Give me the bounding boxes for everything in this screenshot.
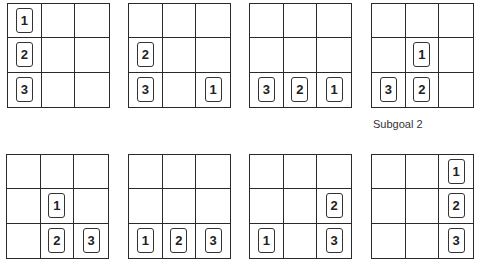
board-3: 321 bbox=[249, 3, 352, 108]
grid-cell bbox=[196, 4, 230, 38]
grid-cell bbox=[41, 155, 75, 189]
grid-cell bbox=[317, 4, 351, 38]
grid-cell bbox=[406, 155, 440, 189]
tile-1: 1 bbox=[413, 42, 430, 67]
grid-cell bbox=[372, 224, 406, 258]
board-6: 123 bbox=[128, 154, 231, 259]
grid-cell: 3 bbox=[317, 224, 351, 258]
grid-cell bbox=[284, 155, 318, 189]
grid-cell: 1 bbox=[317, 73, 351, 107]
grid-cell bbox=[439, 4, 473, 38]
tile-1: 1 bbox=[16, 8, 33, 33]
grid-cell bbox=[284, 38, 318, 72]
tile-2: 2 bbox=[291, 77, 308, 102]
grid-cell: 3 bbox=[196, 224, 230, 258]
grid-cell: 2 bbox=[41, 224, 75, 258]
grid-cell bbox=[439, 73, 473, 107]
grid-cell: 1 bbox=[439, 155, 473, 189]
board-5: 123 bbox=[6, 154, 109, 259]
grid-cell bbox=[317, 38, 351, 72]
tile-1: 1 bbox=[205, 77, 222, 102]
grid-cell bbox=[372, 189, 406, 223]
tile-2: 2 bbox=[448, 193, 465, 218]
grid-cell bbox=[7, 155, 41, 189]
grid-cell bbox=[250, 189, 284, 223]
tile-2: 2 bbox=[16, 42, 33, 67]
grid-cell bbox=[372, 4, 406, 38]
grid-cell bbox=[250, 4, 284, 38]
tile-2: 2 bbox=[326, 193, 343, 218]
grid-cell: 3 bbox=[372, 73, 406, 107]
grid-cell bbox=[317, 155, 351, 189]
grid-cell bbox=[163, 189, 197, 223]
tile-2: 2 bbox=[413, 77, 430, 102]
grid-cell: 2 bbox=[284, 73, 318, 107]
grid-cell bbox=[250, 155, 284, 189]
grid-cell: 2 bbox=[163, 224, 197, 258]
tile-3: 3 bbox=[448, 228, 465, 253]
grid-cell bbox=[129, 155, 163, 189]
grid-cell bbox=[196, 38, 230, 72]
tile-1: 1 bbox=[48, 193, 65, 218]
grid-cell bbox=[163, 4, 197, 38]
grid-cell bbox=[284, 189, 318, 223]
grid-cell bbox=[75, 73, 109, 107]
grid-cell bbox=[406, 224, 440, 258]
grid-cell bbox=[163, 73, 197, 107]
grid-cell bbox=[42, 38, 76, 72]
grid-cell bbox=[74, 189, 108, 223]
grid-cell: 3 bbox=[129, 73, 163, 107]
grid-cell: 2 bbox=[406, 73, 440, 107]
grid-cell bbox=[129, 189, 163, 223]
grid-cell bbox=[372, 155, 406, 189]
subgoal-caption: Subgoal 2 bbox=[373, 118, 423, 130]
tile-2: 2 bbox=[137, 42, 154, 67]
tile-1: 1 bbox=[326, 77, 343, 102]
board-7: 213 bbox=[249, 154, 352, 259]
grid-cell bbox=[7, 189, 41, 223]
grid-cell: 3 bbox=[8, 73, 42, 107]
grid-cell: 2 bbox=[129, 38, 163, 72]
grid-cell: 1 bbox=[8, 4, 42, 38]
tile-3: 3 bbox=[205, 228, 222, 253]
board-8: 123 bbox=[371, 154, 474, 259]
grid-cell bbox=[196, 155, 230, 189]
tile-2: 2 bbox=[48, 228, 65, 253]
grid-cell: 1 bbox=[129, 224, 163, 258]
board-4: 132 bbox=[371, 3, 474, 108]
grid-cell: 1 bbox=[41, 189, 75, 223]
tile-3: 3 bbox=[16, 77, 33, 102]
grid-cell bbox=[406, 4, 440, 38]
tile-1: 1 bbox=[448, 159, 465, 184]
tile-1: 1 bbox=[137, 228, 154, 253]
grid-cell bbox=[163, 155, 197, 189]
grid-cell: 1 bbox=[250, 224, 284, 258]
grid-cell bbox=[250, 38, 284, 72]
grid-cell bbox=[129, 4, 163, 38]
grid-cell bbox=[406, 189, 440, 223]
tile-3: 3 bbox=[326, 228, 343, 253]
grid-cell: 1 bbox=[406, 38, 440, 72]
grid-cell: 3 bbox=[439, 224, 473, 258]
grid-cell: 2 bbox=[8, 38, 42, 72]
grid-cell: 2 bbox=[317, 189, 351, 223]
board-1: 123 bbox=[7, 3, 110, 108]
grid-cell bbox=[372, 38, 406, 72]
grid-cell bbox=[284, 224, 318, 258]
tile-3: 3 bbox=[83, 228, 100, 253]
grid-cell bbox=[74, 155, 108, 189]
grid-cell: 3 bbox=[250, 73, 284, 107]
board-2: 231 bbox=[128, 3, 231, 108]
tile-2: 2 bbox=[170, 228, 187, 253]
grid-cell bbox=[439, 38, 473, 72]
grid-cell bbox=[75, 38, 109, 72]
grid-cell: 1 bbox=[196, 73, 230, 107]
tile-3: 3 bbox=[380, 77, 397, 102]
grid-cell bbox=[163, 38, 197, 72]
grid-cell bbox=[7, 224, 41, 258]
grid-cell bbox=[42, 73, 76, 107]
grid-cell bbox=[196, 189, 230, 223]
tile-1: 1 bbox=[258, 228, 275, 253]
tile-3: 3 bbox=[258, 77, 275, 102]
tile-3: 3 bbox=[137, 77, 154, 102]
